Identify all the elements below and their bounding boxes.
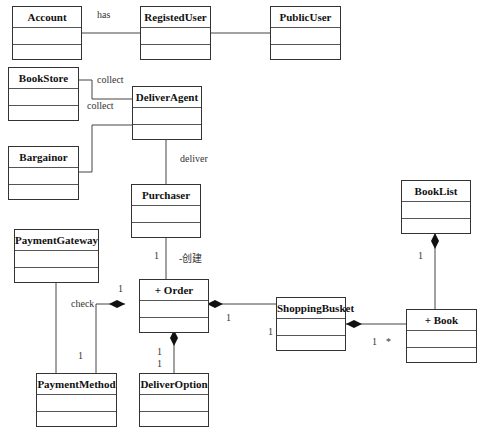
attributes-compartment xyxy=(13,28,81,45)
class-name: + Order xyxy=(140,280,208,301)
class-payment-method[interactable]: PaymentMethod xyxy=(36,373,117,427)
class-order[interactable]: + Order xyxy=(139,279,209,333)
class-name: DeliverOption xyxy=(140,374,208,395)
multiplicity: 1 xyxy=(418,250,423,261)
class-account[interactable]: Account xyxy=(12,6,82,60)
multiplicity: 1 xyxy=(372,336,377,347)
attributes-compartment xyxy=(133,108,201,125)
multiplicity: 1 xyxy=(118,283,123,294)
attributes-compartment xyxy=(141,28,210,45)
operations-compartment xyxy=(402,219,470,235)
attributes-compartment xyxy=(407,331,476,348)
operations-compartment xyxy=(141,45,210,61)
class-deliver-agent[interactable]: DeliverAgent xyxy=(132,86,202,140)
operations-compartment xyxy=(277,336,345,352)
class-book-list[interactable]: BookList xyxy=(401,180,471,234)
operations-compartment xyxy=(140,318,208,334)
attributes-compartment xyxy=(140,301,208,318)
multiplicity: 1 xyxy=(226,312,231,323)
operations-compartment xyxy=(13,45,81,61)
multiplicity: 1 xyxy=(157,346,162,357)
class-public-user[interactable]: PublicUser xyxy=(270,6,341,60)
class-name: Account xyxy=(13,7,81,28)
operations-compartment xyxy=(407,348,476,364)
multiplicity: 1 xyxy=(268,326,273,337)
attributes-compartment xyxy=(37,395,116,412)
class-name: Purchaser xyxy=(132,185,200,206)
class-name: PublicUser xyxy=(271,7,340,28)
class-name: PaymentMethod xyxy=(37,374,116,395)
operations-compartment xyxy=(37,412,116,428)
attributes-compartment xyxy=(271,28,340,45)
label-deliver: deliver xyxy=(180,153,208,164)
multiplicity: 1 xyxy=(78,350,83,361)
class-bargainor[interactable]: Bargainor xyxy=(8,146,79,200)
attributes-compartment xyxy=(140,395,208,412)
class-name: PaymentGateway xyxy=(15,230,98,251)
label-collect-bookstore: collect xyxy=(97,74,124,85)
class-book[interactable]: + Book xyxy=(406,309,477,363)
label-create: -创建 xyxy=(179,250,202,265)
attributes-compartment xyxy=(277,319,345,336)
class-name: RegistedUser xyxy=(141,7,210,28)
label-check: check xyxy=(71,298,94,309)
class-name: ShoppingBusket xyxy=(277,298,345,319)
class-name: Bargainor xyxy=(9,147,78,168)
operations-compartment xyxy=(9,106,78,122)
attributes-compartment xyxy=(15,251,98,268)
class-name: DeliverAgent xyxy=(133,87,201,108)
class-name: BookList xyxy=(402,181,470,202)
class-registed-user[interactable]: RegistedUser xyxy=(140,6,211,60)
multiplicity: 1 xyxy=(157,358,162,369)
attributes-compartment xyxy=(9,89,78,106)
label-has: has xyxy=(97,9,110,20)
attributes-compartment xyxy=(402,202,470,219)
class-name: BookStore xyxy=(9,68,78,89)
class-purchaser[interactable]: Purchaser xyxy=(131,184,201,238)
label-collect-bargainor: collect xyxy=(87,100,114,111)
class-book-store[interactable]: BookStore xyxy=(8,67,79,121)
operations-compartment xyxy=(133,125,201,141)
class-payment-gateway[interactable]: PaymentGateway xyxy=(14,229,99,283)
class-shopping-busket[interactable]: ShoppingBusket xyxy=(276,297,346,351)
class-deliver-option[interactable]: DeliverOption xyxy=(139,373,209,427)
operations-compartment xyxy=(15,268,98,284)
multiplicity: 1 xyxy=(154,250,159,261)
class-name: + Book xyxy=(407,310,476,331)
operations-compartment xyxy=(140,412,208,428)
operations-compartment xyxy=(132,223,200,239)
multiplicity: * xyxy=(386,336,391,347)
operations-compartment xyxy=(271,45,340,61)
operations-compartment xyxy=(9,185,78,201)
attributes-compartment xyxy=(132,206,200,223)
attributes-compartment xyxy=(9,168,78,185)
uml-class-diagram: Account RegistedUser PublicUser BookStor… xyxy=(0,0,483,436)
